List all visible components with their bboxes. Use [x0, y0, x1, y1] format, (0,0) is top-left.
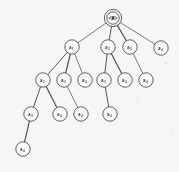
node-label-subscript: 3: [64, 80, 66, 84]
tree-node: a4: [16, 142, 30, 156]
tree-node: a3: [97, 73, 111, 87]
nodes-layer: a1a2a3a4a2a3a4a3a4a4a3a4a4a4a4: [16, 9, 168, 156]
scan-speck: [8, 119, 9, 120]
root-eye-pupil-icon: [112, 17, 115, 20]
node-label-subscript: 4: [110, 114, 112, 118]
tree-edge: [78, 23, 106, 43]
tree-node: a4: [74, 107, 88, 121]
node-label-subscript: 4: [125, 80, 127, 84]
tree-node: a3: [123, 40, 137, 54]
tree-edge: [33, 87, 40, 107]
node-label-subscript: 4: [81, 114, 83, 118]
tree-edge: [66, 54, 71, 73]
tree-node: a2: [36, 73, 50, 87]
node-label-subscript: 4: [60, 114, 62, 118]
node-label-subscript: 2: [108, 47, 110, 51]
node-label-subscript: 3: [130, 47, 132, 51]
node-label-subscript: 4: [23, 149, 25, 153]
tree-node: a3: [24, 107, 38, 121]
tree-node: a1: [65, 40, 79, 54]
tree-edge: [25, 121, 30, 142]
tree-edge: [105, 54, 107, 73]
node-label-subscript: 4: [161, 48, 163, 52]
tree-node: a4: [118, 73, 132, 87]
tree-edge: [67, 86, 78, 107]
node-label-subscript: 1: [72, 47, 74, 51]
tree-edge: [111, 53, 121, 73]
tree-edge: [109, 26, 111, 39]
node-label-subscript: 2: [43, 80, 45, 84]
tree-diagram-canvas: a1a2a3a4a2a3a4a3a4a4a3a4a4a4a4: [0, 0, 179, 172]
tree-edge: [75, 54, 83, 74]
tree-node: a4: [103, 107, 117, 121]
tree-root-node: [104, 9, 121, 26]
tree-node: a4: [78, 73, 92, 87]
tree-edge: [48, 52, 68, 74]
scan-speck: [165, 62, 167, 64]
tree-edge: [117, 25, 126, 40]
tree-node: a4: [53, 107, 67, 121]
tree-edge: [46, 86, 57, 107]
tree-node: a2: [101, 40, 115, 54]
node-label-subscript: 4: [146, 80, 148, 84]
tree-edge: [105, 87, 109, 107]
scan-speck: [136, 98, 137, 99]
tree-node: a4: [139, 73, 153, 87]
tree-diagram-figure: a1a2a3a4a2a3a4a3a4a4a3a4a4a4a4: [0, 0, 179, 172]
tree-node: a4: [154, 41, 168, 55]
node-label-subscript: 4: [85, 80, 87, 84]
node-label-subscript: 3: [31, 114, 33, 118]
tree-edge: [133, 53, 143, 73]
node-label-subscript: 3: [104, 80, 106, 84]
scan-speck: [171, 132, 172, 133]
tree-node: a3: [57, 73, 71, 87]
